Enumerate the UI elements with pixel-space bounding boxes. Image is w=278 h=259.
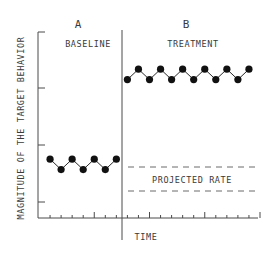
phase-b-label: B	[183, 18, 190, 31]
series-line	[127, 69, 249, 79]
data-point	[234, 76, 241, 83]
data-point	[91, 156, 98, 163]
data-point	[168, 76, 175, 83]
baseline-series	[46, 156, 120, 174]
treatment-series	[124, 66, 253, 84]
data-point	[146, 76, 153, 83]
phase-a-label: A	[75, 18, 82, 31]
data-point	[80, 166, 87, 173]
data-point	[245, 66, 252, 73]
data-point	[190, 76, 197, 83]
y-axis	[38, 32, 45, 218]
single-case-design-chart: MAGNITUDE OF THE TARGET BEHAVIOR A B BAS…	[0, 0, 278, 259]
data-point	[124, 76, 131, 83]
baseline-label: BASELINE	[65, 39, 111, 49]
x-axis	[38, 212, 260, 218]
data-point	[201, 66, 208, 73]
y-axis-label: MAGNITUDE OF THE TARGET BEHAVIOR	[16, 36, 26, 219]
data-point	[102, 166, 109, 173]
data-point	[135, 66, 142, 73]
treatment-label: TREATMENT	[167, 39, 218, 49]
data-point	[179, 66, 186, 73]
data-point	[46, 156, 53, 163]
data-point	[212, 76, 219, 83]
projected-rate-label: PROJECTED RATE	[152, 175, 232, 185]
data-point	[223, 66, 230, 73]
data-point	[113, 156, 120, 163]
data-point	[58, 166, 65, 173]
data-point	[69, 156, 76, 163]
x-axis-label: TIME	[135, 232, 158, 242]
projected-rate-band: PROJECTED RATE	[128, 167, 258, 191]
data-point	[157, 66, 164, 73]
